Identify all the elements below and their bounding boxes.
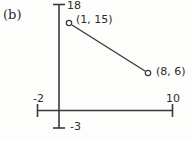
data-point-label-8-6: (8, 6)	[156, 66, 186, 77]
x-axis-right-tick-label: 10	[166, 93, 180, 104]
x-axis-left-tick-label: -2	[33, 93, 44, 104]
data-point-8-6	[145, 70, 150, 75]
y-axis-bottom-tick-label: -3	[70, 121, 81, 132]
data-point-1-15	[66, 20, 71, 25]
panel-label: (b)	[3, 8, 21, 21]
y-axis-top-tick-label: 18	[67, 0, 81, 11]
data-point-label-1-15: (1, 15)	[76, 14, 113, 25]
graph-figure: (b) 18 -3 -2 10 (1, 15) (8, 6)	[0, 0, 192, 141]
line-segment	[72, 25, 145, 71]
